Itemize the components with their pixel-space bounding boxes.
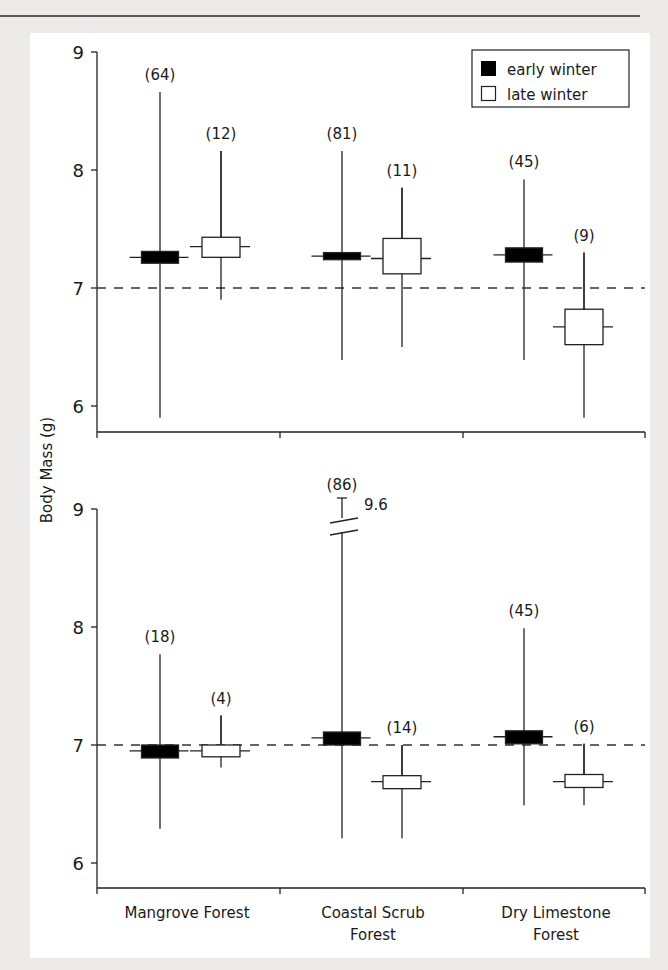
box (506, 248, 543, 262)
y-tick-label: 7 (73, 735, 84, 756)
box (142, 251, 179, 263)
box-early-2: (45) (494, 153, 553, 360)
sample-size-label: (9) (573, 227, 594, 245)
sample-size-label: (18) (145, 628, 176, 646)
sample-size-label: (4) (210, 690, 231, 708)
x-label-coastal-line2: Forest (350, 926, 396, 944)
box (383, 776, 421, 789)
box-late-2: (6) (553, 718, 613, 805)
box-early-0: (18) (130, 628, 189, 829)
box-late-2: (9) (553, 227, 613, 418)
sample-size-label: (11) (387, 162, 418, 180)
sample-size-label: (6) (573, 718, 594, 736)
legend-swatch-late (482, 87, 496, 101)
legend: early winter late winter (472, 50, 629, 107)
box (142, 745, 179, 758)
y-tick-label: 8 (73, 160, 84, 181)
x-label-coastal-line1: Coastal Scrub (321, 904, 425, 922)
sample-size-label: (45) (509, 153, 540, 171)
sample-size-label: (14) (387, 719, 418, 737)
box (202, 745, 240, 757)
box-plot-figure: Body Mass (g) early winter late winter 6… (0, 0, 668, 970)
y-tick-label: 9 (73, 499, 84, 520)
box-late-0: (12) (190, 125, 250, 300)
box (324, 732, 361, 745)
y-tick-label: 7 (73, 278, 84, 299)
y-tick-label: 6 (73, 853, 84, 874)
box-late-0: (4) (190, 690, 250, 768)
x-label-dry-line1: Dry Limestone (501, 904, 610, 922)
sample-size-label: (86) (327, 476, 358, 494)
y-tick-label: 9 (73, 42, 84, 63)
y-tick-label: 6 (73, 396, 84, 417)
box (383, 238, 421, 273)
legend-label-early: early winter (507, 61, 597, 79)
sample-size-label: (81) (327, 125, 358, 143)
break-value-label: 9.6 (364, 496, 388, 514)
legend-swatch-early (481, 61, 496, 76)
y-axis-label: Body Mass (g) (38, 417, 56, 523)
box (565, 309, 603, 344)
box (202, 237, 240, 257)
box-early-1: 9.6(86) (312, 476, 388, 838)
sample-size-label: (12) (206, 125, 237, 143)
box-early-0: (64) (130, 66, 189, 418)
sample-size-label: (45) (509, 602, 540, 620)
box-early-2: (45) (494, 602, 553, 805)
y-tick-label: 8 (73, 617, 84, 638)
x-label-mangrove: Mangrove Forest (124, 904, 249, 922)
legend-label-late: late winter (507, 86, 588, 104)
box (506, 731, 543, 744)
box-late-1: (14) (371, 719, 431, 838)
axis-break-mark (330, 518, 358, 523)
box (324, 253, 361, 260)
panel-bottom: 6789(18)9.6(86)(45)(4)(14)(6) (73, 476, 645, 894)
box (565, 775, 603, 788)
x-label-dry-line2: Forest (533, 926, 579, 944)
sample-size-label: (64) (145, 66, 176, 84)
box-early-1: (81) (312, 125, 371, 360)
box-late-1: (11) (371, 162, 431, 347)
